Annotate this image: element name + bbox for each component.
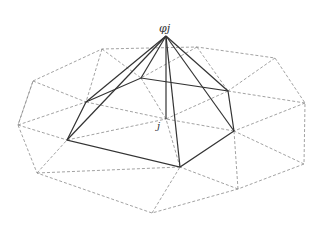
solid-pyramid [67,36,234,167]
node-label: j [157,120,160,131]
apex-label: φj [159,22,170,35]
dashed-mesh [18,47,305,213]
